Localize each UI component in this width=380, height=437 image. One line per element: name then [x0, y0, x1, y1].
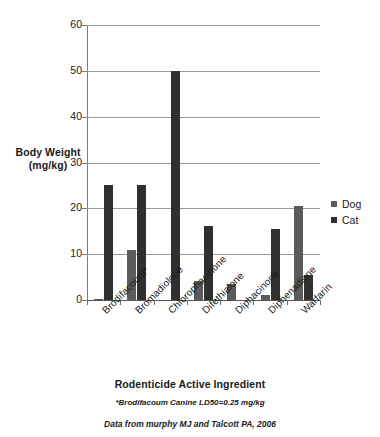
y-tick-label: 50 [56, 64, 82, 76]
chart-legend: DogCat [331, 196, 379, 228]
gridline [87, 163, 320, 164]
y-tick-label: 0 [56, 293, 82, 305]
bar-cat-diphenadione [271, 229, 280, 300]
footnote-brodifacoum-ld50: *Brodifacoum Canine LD50=0.25 mg/kg [0, 398, 380, 407]
x-tick-mark [120, 300, 121, 305]
bar-dog-difethialone [194, 281, 203, 300]
legend-item-dog[interactable]: Dog [331, 196, 379, 212]
x-tick-mark [320, 300, 321, 305]
footnote-data-source: Data from murphy MJ and Talcott PA, 2006 [0, 419, 380, 429]
bar-cat-brodifacoum [104, 185, 113, 300]
gridline [87, 71, 320, 72]
legend-swatch-icon [331, 201, 337, 207]
legend-swatch-icon [331, 217, 337, 223]
x-axis-line [87, 300, 320, 301]
bar-chart-figure: Body Weight (mg/kg) 0102030405060 Brodif… [0, 0, 380, 437]
bar-cat-warfarin [304, 275, 313, 300]
x-axis-title: Rodenticide Active Ingredient [0, 378, 380, 390]
gridline [87, 208, 320, 209]
bar-cat-difethialone [204, 226, 213, 300]
x-tick-mark [87, 300, 88, 305]
legend-label: Cat [342, 214, 358, 226]
y-tick-label: 60 [56, 18, 82, 30]
x-tick-mark [154, 300, 155, 305]
x-tick-mark [287, 300, 288, 305]
y-tick-label: 40 [56, 110, 82, 122]
x-tick-mark [220, 300, 221, 305]
bar-dog-brodifacoum [94, 299, 103, 300]
bar-dog-bromadiolone [127, 250, 136, 300]
y-axis-ticks: 0102030405060 [52, 25, 82, 301]
gridline [87, 117, 320, 118]
plot-area [87, 25, 320, 300]
y-tick-label: 20 [56, 201, 82, 213]
bar-dog-diphacinone [227, 284, 236, 300]
legend-label: Dog [342, 198, 361, 210]
y-tick-label: 30 [56, 156, 82, 168]
bar-cat-chlorophacinone [171, 71, 180, 300]
bar-dog-diphenadione [261, 295, 270, 300]
x-tick-mark [187, 300, 188, 305]
gridline [87, 25, 320, 26]
y-tick-label: 10 [56, 247, 82, 259]
bar-dog-warfarin [294, 206, 303, 300]
x-tick-mark [253, 300, 254, 305]
legend-item-cat[interactable]: Cat [331, 212, 379, 228]
bar-cat-bromadiolone [137, 185, 146, 300]
